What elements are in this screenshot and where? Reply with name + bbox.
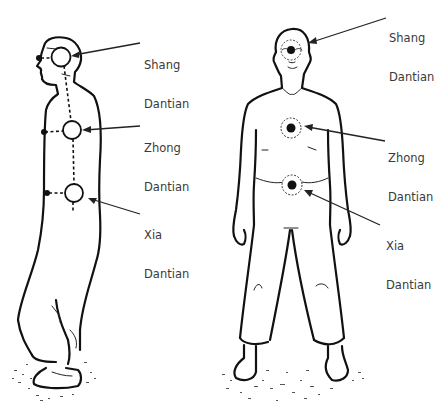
side-xia-arrow bbox=[88, 198, 140, 214]
side-ground-speckles bbox=[12, 362, 96, 401]
front-zhong-label-line2: Dantian bbox=[388, 191, 433, 204]
side-xia-dantian-circle bbox=[65, 184, 83, 202]
dantian-illustration: Shang Dantian Zhong Dantian Xia Dantian … bbox=[0, 0, 440, 414]
side-zhong-arrow bbox=[82, 126, 140, 133]
front-zhong-dantian-marker bbox=[281, 118, 301, 138]
front-zhong-arrow bbox=[304, 124, 385, 141]
front-xia-label-line2: Dantian bbox=[386, 279, 431, 292]
side-shang-label-line2: Dantian bbox=[144, 98, 189, 111]
front-shang-dantian-dot bbox=[287, 46, 295, 54]
side-xia-label-line2: Dantian bbox=[144, 268, 189, 281]
side-zhong-dantian-circle bbox=[63, 121, 81, 139]
figures-drawing bbox=[0, 0, 440, 414]
front-shang-label-line1: Shang bbox=[389, 32, 434, 45]
side-xia-label-line1: Xia bbox=[144, 229, 189, 242]
front-shang-label-line2: Dantian bbox=[389, 71, 434, 84]
side-zhong-label-line2: Dantian bbox=[144, 181, 189, 194]
front-ground-speckles bbox=[222, 370, 364, 401]
side-xia-label: Xia Dantian bbox=[144, 203, 189, 307]
side-view-figure bbox=[12, 37, 140, 401]
front-zhong-label-line1: Zhong bbox=[388, 152, 433, 165]
front-shang-label: Shang Dantian bbox=[389, 6, 434, 110]
front-shang-arrow bbox=[308, 18, 386, 44]
front-xia-dantian-marker bbox=[282, 175, 302, 195]
side-xia-point-dot bbox=[44, 190, 50, 196]
side-shang-label-line1: Shang bbox=[144, 59, 189, 72]
front-xia-arrow bbox=[304, 190, 380, 225]
side-shang-point-dot bbox=[36, 55, 42, 61]
front-xia-label-line1: Xia bbox=[386, 240, 431, 253]
side-shang-dantian-circle bbox=[52, 48, 71, 67]
front-xia-label: Xia Dantian bbox=[386, 214, 431, 318]
front-view-figure bbox=[222, 18, 386, 401]
side-zhong-label-line1: Zhong bbox=[144, 142, 189, 155]
side-zhong-point-dot bbox=[41, 129, 47, 135]
